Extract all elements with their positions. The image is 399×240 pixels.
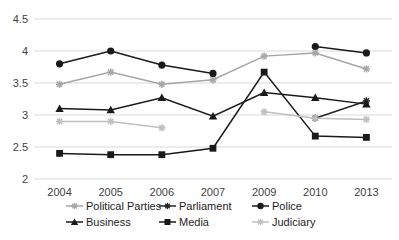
data-point-marker [261, 69, 268, 76]
data-point-marker [158, 151, 165, 158]
data-point-marker [363, 65, 370, 72]
data-point-marker [363, 116, 370, 123]
series-line [315, 47, 366, 53]
data-point-marker [107, 118, 114, 125]
line-chart: 22.533.544.52004200520062007200920102013… [0, 0, 399, 240]
data-point-marker [209, 70, 216, 77]
x-axis-tick-label: 2010 [303, 186, 327, 198]
data-point-marker [261, 53, 268, 60]
data-point-marker [363, 134, 370, 141]
data-point-marker [107, 69, 114, 76]
data-point-marker [56, 118, 63, 125]
series-line [60, 51, 213, 73]
legend-label: Business [86, 216, 131, 228]
legend-item-business[interactable]: Business [66, 216, 131, 228]
legend-item-judiciary[interactable]: Judiciary [252, 216, 316, 228]
series-political-parties [56, 49, 370, 88]
data-point-marker [209, 76, 216, 83]
x-axis-tick-label: 2006 [150, 186, 174, 198]
data-point-marker [56, 81, 63, 88]
legend-item-political-parties[interactable]: Political Parties [66, 200, 162, 212]
y-axis-tick-label: 2 [22, 173, 28, 185]
data-point-marker [261, 108, 268, 115]
data-point-marker [158, 94, 166, 101]
legend-label: Parliament [179, 200, 232, 212]
data-point-marker [260, 88, 268, 95]
y-axis-tick-label: 4 [22, 45, 28, 57]
data-point-marker [312, 49, 319, 56]
data-point-marker [158, 61, 165, 68]
legend-label: Judiciary [272, 216, 316, 228]
data-point-marker [56, 150, 63, 157]
data-point-marker [312, 43, 319, 50]
x-axis-tick-label: 2007 [201, 186, 225, 198]
legend-label: Media [179, 216, 210, 228]
data-point-marker [107, 151, 114, 158]
y-axis-tick-label: 3 [22, 109, 28, 121]
legend-item-police[interactable]: Police [252, 200, 302, 212]
data-point-marker [257, 203, 263, 209]
x-axis-tick-label: 2005 [98, 186, 122, 198]
data-point-marker [158, 124, 165, 131]
series-judiciary [56, 108, 370, 131]
legend-item-media[interactable]: Media [159, 216, 210, 228]
legend-label: Political Parties [86, 200, 162, 212]
data-point-marker [312, 133, 319, 140]
data-point-marker [312, 115, 319, 122]
data-point-marker [363, 49, 370, 56]
data-point-marker [71, 203, 77, 209]
legend-label: Police [272, 200, 302, 212]
data-point-marker [107, 47, 114, 54]
data-point-marker [158, 81, 165, 88]
series-police [56, 43, 370, 77]
data-point-marker [56, 60, 63, 67]
y-axis-tick-label: 4.5 [13, 13, 28, 25]
y-axis-tick-label: 2.5 [13, 141, 28, 153]
y-axis-tick-label: 3.5 [13, 77, 28, 89]
data-point-marker [210, 145, 217, 152]
x-axis-tick-label: 2004 [47, 186, 71, 198]
x-axis-tick-label: 2013 [354, 186, 378, 198]
data-point-marker [165, 219, 171, 225]
legend-item-parliament[interactable]: Parliament [159, 200, 232, 212]
chart-container: 22.533.544.52004200520062007200920102013… [0, 0, 399, 240]
data-point-marker [164, 203, 170, 209]
x-axis-tick-label: 2009 [252, 186, 276, 198]
data-point-marker [257, 219, 263, 225]
